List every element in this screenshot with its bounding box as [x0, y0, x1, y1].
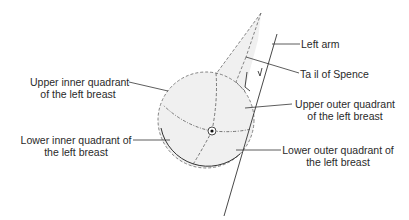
arrow-marker — [258, 68, 262, 76]
breast-outline — [158, 72, 254, 168]
label-lower-outer-line2: the left breast — [282, 156, 394, 168]
label-lower-outer-line1: Lower outer quadrant of — [282, 144, 394, 156]
label-tail-of-spence: Ta il of Spence — [300, 68, 369, 80]
label-upper-inner: Upper inner quadrant of the left breast — [30, 76, 126, 100]
label-upper-inner-line1: Upper inner quadrant — [30, 76, 126, 88]
label-upper-outer: Upper outer quadrant of the left breast — [293, 98, 397, 122]
label-lower-inner: Lower inner quadrant of the left breast — [20, 134, 132, 158]
label-upper-outer-line2: of the left breast — [293, 110, 397, 122]
leader-upper-inner — [129, 82, 168, 91]
label-lower-inner-line2: the left breast — [20, 146, 132, 158]
nipple-center — [210, 129, 213, 132]
label-lower-outer: Lower outer quadrant of the left breast — [282, 144, 394, 168]
leader-tail-of-spence — [246, 57, 299, 73]
label-upper-outer-line1: Upper outer quadrant — [293, 98, 397, 110]
label-lower-inner-line1: Lower inner quadrant of — [20, 134, 132, 146]
label-left-arm: Left arm — [301, 38, 340, 50]
label-upper-inner-line2: of the left breast — [30, 88, 126, 100]
